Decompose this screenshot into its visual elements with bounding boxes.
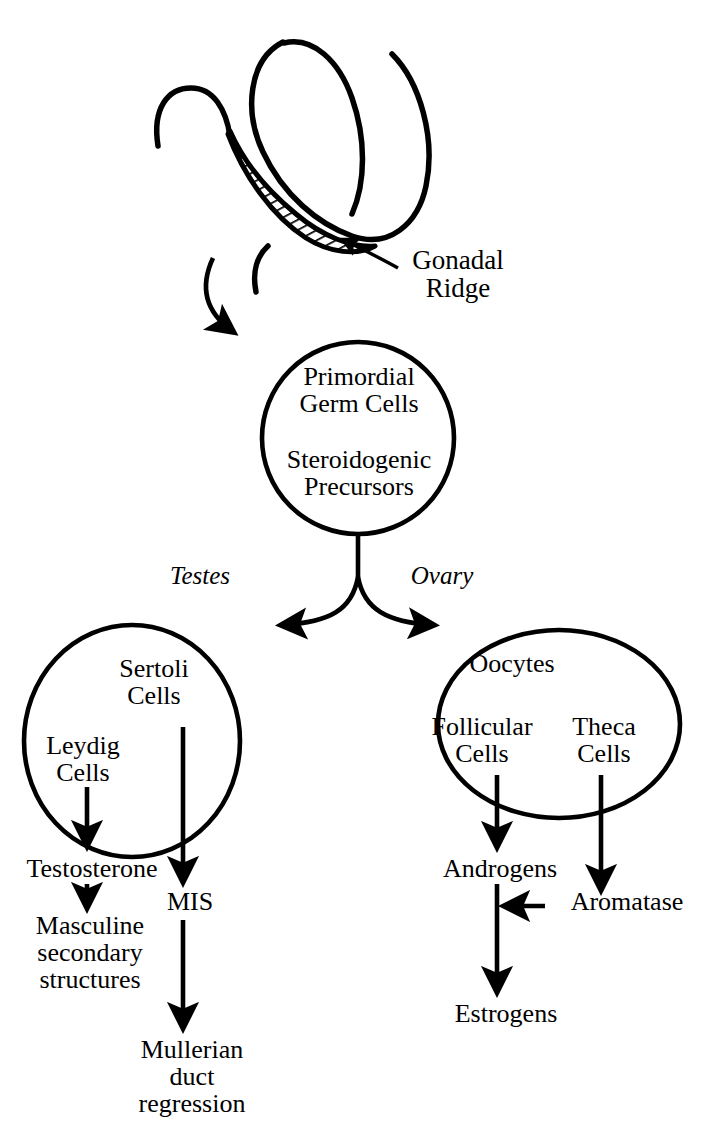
androgens-label: Androgens [424,855,576,882]
estrogens-label: Estrogens [430,1000,582,1027]
testosterone-label: Testosterone [2,855,182,882]
leydig-cells-label: Leydig Cells [24,732,142,786]
theca-cells-label: Theca Cells [552,713,656,767]
fork-left-branch [283,577,358,625]
testes-branch-label: Testes [148,563,252,589]
masculine-structures-label: Masculine secondary structures [10,912,170,993]
arrow-ridge-to-primordial [206,258,232,331]
gonadal-ridge-label: Gonadal Ridge [368,246,548,302]
embryo-left-hook [157,88,230,146]
mullerian-duct-regression-label: Mullerian duct regression [122,1036,262,1117]
aromatase-label: Aromatase [552,888,702,915]
mis-label: MIS [150,888,230,915]
follicular-cells-label: Follicular Cells [414,713,550,767]
primordial-germ-cells-label: Primordial Germ Cells [264,363,454,417]
sertoli-cells-label: Sertoli Cells [92,655,216,709]
oocytes-label: Oocytes [452,650,572,677]
embryo-inner-curve [284,42,363,214]
steroidogenic-precursors-label: Steroidogenic Precursors [252,446,466,500]
embryo-lower-tail [255,246,268,292]
ovary-branch-label: Ovary [390,563,494,589]
diagram-canvas: Gonadal Ridge Primordial Germ Cells Ster… [0,0,702,1131]
